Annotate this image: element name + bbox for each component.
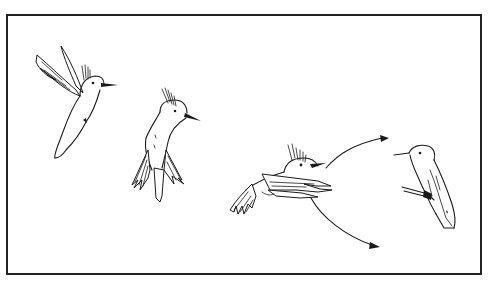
hummingbird-illustration: [0, 0, 488, 281]
bird-2-hovering-wings-down: [132, 88, 201, 202]
bird-1-hovering-wings-up: [36, 46, 118, 158]
bird-3-forward-flight: [230, 144, 332, 214]
arrow-lower: [311, 198, 380, 249]
arrow-upper: [326, 135, 389, 168]
bird-4-perched: [394, 145, 455, 228]
